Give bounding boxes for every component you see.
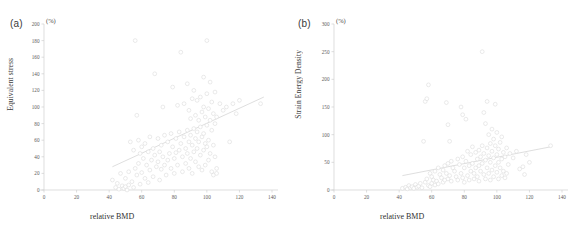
panel-a: (a) (%) Equivalent stress relative BMD 0… — [0, 0, 288, 239]
svg-text:100: 100 — [493, 194, 501, 200]
svg-text:200: 200 — [32, 21, 40, 27]
svg-text:300: 300 — [322, 21, 330, 27]
panel-b-plot: 050100150200250300020406080100120140 — [288, 0, 576, 239]
svg-text:140: 140 — [32, 71, 40, 77]
svg-text:100: 100 — [32, 104, 40, 110]
figure-root: (a) (%) Equivalent stress relative BMD 0… — [0, 0, 576, 239]
svg-text:140: 140 — [268, 194, 276, 200]
panel-b: (b) (%) Strain Energy Density relative B… — [288, 0, 576, 239]
svg-text:80: 80 — [462, 194, 468, 200]
panel-a-plot: 0204060801001201401601802000204060801001… — [0, 0, 288, 239]
svg-text:180: 180 — [32, 38, 40, 44]
svg-text:60: 60 — [34, 137, 40, 143]
svg-text:0: 0 — [327, 187, 330, 193]
svg-text:60: 60 — [429, 194, 435, 200]
svg-text:40: 40 — [107, 194, 113, 200]
svg-text:20: 20 — [34, 170, 40, 176]
svg-text:120: 120 — [236, 194, 244, 200]
svg-text:0: 0 — [333, 194, 336, 200]
svg-text:120: 120 — [32, 87, 40, 93]
svg-text:40: 40 — [34, 154, 40, 160]
svg-text:150: 150 — [322, 104, 330, 110]
svg-text:40: 40 — [397, 194, 403, 200]
svg-text:200: 200 — [322, 76, 330, 82]
svg-text:0: 0 — [43, 194, 46, 200]
svg-text:80: 80 — [34, 121, 40, 127]
svg-text:80: 80 — [172, 194, 178, 200]
svg-text:0: 0 — [37, 187, 40, 193]
svg-text:140: 140 — [558, 194, 566, 200]
svg-text:100: 100 — [322, 132, 330, 138]
svg-text:20: 20 — [364, 194, 370, 200]
svg-text:120: 120 — [526, 194, 534, 200]
svg-text:250: 250 — [322, 49, 330, 55]
svg-text:50: 50 — [324, 159, 330, 165]
scatter-points — [111, 39, 263, 192]
svg-text:160: 160 — [32, 54, 40, 60]
svg-text:100: 100 — [203, 194, 211, 200]
scatter-points — [401, 50, 553, 191]
svg-text:20: 20 — [74, 194, 80, 200]
svg-text:60: 60 — [139, 194, 145, 200]
